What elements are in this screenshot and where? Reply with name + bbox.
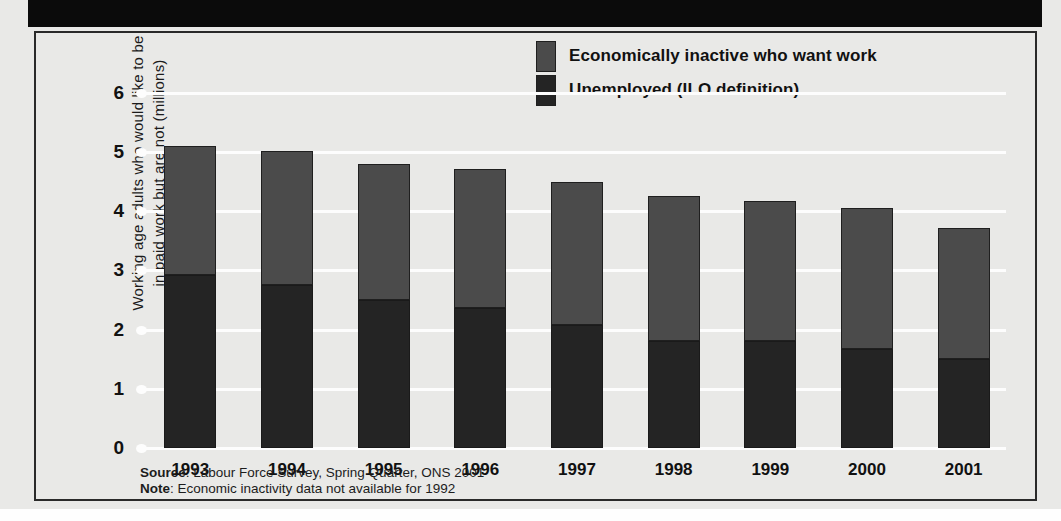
y-axis-tick-label: 3 (90, 260, 124, 279)
bar-segment-inactive (744, 201, 796, 341)
bar-1995 (358, 164, 410, 448)
gridline-6 (142, 92, 1006, 95)
plot-area: 0123456199319941995199619971998199920002… (136, 69, 1006, 453)
bar-segment-inactive (648, 196, 700, 341)
tick-marker-5 (136, 148, 147, 157)
source-label: Source (140, 465, 186, 480)
tick-marker-0 (136, 444, 147, 453)
y-axis-tick-label: 0 (90, 438, 124, 457)
bar-segment-inactive (454, 169, 506, 308)
tick-marker-6 (136, 89, 147, 98)
title-band (28, 0, 1042, 27)
scan-bottom-margin (0, 509, 1061, 521)
bar-segment-inactive (261, 151, 313, 285)
bar-1998 (648, 196, 700, 448)
bar-segment-inactive (358, 164, 410, 300)
bar-segment-inactive (938, 228, 990, 359)
note-text: : Economic inactivity data not available… (170, 481, 455, 496)
bar-1993 (164, 146, 216, 448)
bar-1999 (744, 201, 796, 448)
x-axis-tick-label-1999: 1999 (730, 461, 810, 479)
y-axis-tick-label: 1 (90, 379, 124, 398)
bar-segment-unemployed (164, 275, 216, 448)
legend-item-inactive: Economically inactive who want work (536, 39, 877, 73)
bar-segment-inactive (551, 182, 603, 325)
x-axis-tick-label-2001: 2001 (924, 461, 1004, 479)
bar-segment-unemployed (454, 308, 506, 448)
x-axis-tick-label-2000: 2000 (827, 461, 907, 479)
y-axis-tick-label: 4 (90, 201, 124, 220)
bar-2000 (841, 208, 893, 448)
bar-1996 (454, 169, 506, 448)
bar-1994 (261, 151, 313, 448)
bar-2001 (938, 228, 990, 448)
y-axis-tick-label: 6 (90, 83, 124, 102)
tick-marker-4 (136, 207, 147, 216)
footnotes: Source: Labour Force Survey, Spring Quar… (140, 465, 484, 497)
bar-segment-unemployed (938, 359, 990, 448)
tick-marker-3 (136, 266, 147, 275)
tick-marker-1 (136, 385, 147, 394)
bar-segment-inactive (841, 208, 893, 348)
x-axis-tick-label-1998: 1998 (634, 461, 714, 479)
bar-segment-unemployed (841, 349, 893, 448)
bar-1997 (551, 182, 603, 448)
source-text: : Labour Force Survey, Spring Quarter, O… (186, 465, 484, 480)
data-note: Note: Economic inactivity data not avail… (140, 481, 484, 497)
legend-swatch-inactive (536, 41, 556, 72)
y-axis-tick-label: 2 (90, 320, 124, 339)
figure-frame: Working age adults who would like to be … (0, 0, 1061, 510)
legend-label-inactive: Economically inactive who want work (569, 46, 877, 66)
chart-panel: Working age adults who would like to be … (34, 31, 1037, 501)
tick-marker-2 (136, 326, 147, 335)
note-label: Note (140, 481, 170, 496)
bar-segment-unemployed (744, 341, 796, 448)
bar-segment-unemployed (261, 285, 313, 448)
source-note: Source: Labour Force Survey, Spring Quar… (140, 465, 484, 481)
bar-segment-unemployed (648, 341, 700, 448)
x-axis-tick-label-1997: 1997 (537, 461, 617, 479)
bar-segment-inactive (164, 146, 216, 274)
bar-segment-unemployed (358, 300, 410, 448)
chart-page: Working age adults who would like to be … (0, 0, 1061, 521)
bar-segment-unemployed (551, 325, 603, 448)
y-axis-tick-label: 5 (90, 142, 124, 161)
